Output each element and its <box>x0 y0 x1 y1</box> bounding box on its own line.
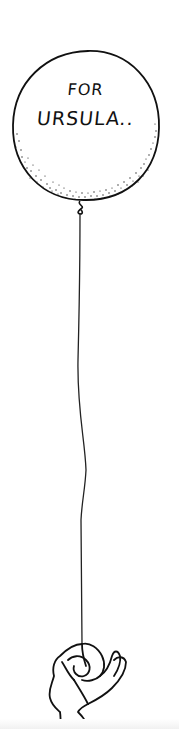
bottom-edge-shadow <box>0 719 179 729</box>
illustration: FOR URSULA.. <box>0 0 179 729</box>
balloon-string <box>78 214 86 644</box>
balloon-text-line1: FOR <box>0 80 176 99</box>
balloon-knot <box>78 201 82 214</box>
balloon-text-line2: URSULA.. <box>0 107 176 129</box>
balloon-shading <box>15 123 156 200</box>
hand-drawing <box>49 644 126 729</box>
